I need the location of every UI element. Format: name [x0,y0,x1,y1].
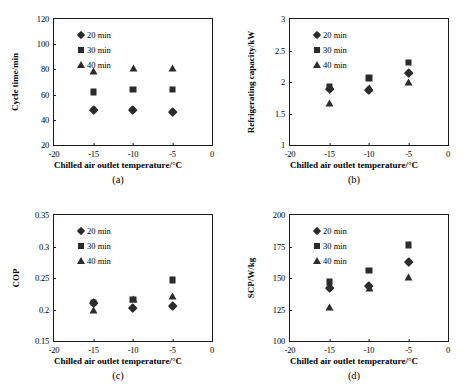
square-marker-icon [169,277,176,284]
y-axis-tick: 40 [41,115,49,125]
legend-marker [76,241,85,250]
plot-area: 11.522.53-20-15-10-5020 min30 min40 min [289,18,449,146]
panel-a: Cycle time/min20406080100120-20-15-10-50… [0,0,236,196]
data-point [168,108,177,117]
legend-item: 20 min [312,27,347,42]
legend-item-label: 30 min [323,45,347,55]
y-axis-tick: 60 [41,90,49,100]
x-axis-tick: -5 [169,345,176,355]
triangle-marker [325,302,334,311]
data-point [404,272,413,281]
square-marker-icon [405,59,412,66]
y-axis-label: COP [8,214,22,342]
x-axis-tick: -10 [364,149,375,159]
legend-marker [76,256,85,265]
legend-item: 30 min [76,238,111,253]
data-point [168,85,177,94]
data-point [365,284,374,293]
triangle-marker-icon [77,61,85,68]
y-axis-label: Cycle time/min [8,18,22,146]
data-point [404,78,413,87]
legend-item: 20 min [76,27,111,42]
legend-marker [312,241,321,250]
legend-item-label: 40 min [323,60,347,70]
y-axis-label-text: Cycle time/min [10,53,20,111]
x-axis-label: Chilled air outlet temperature/°C [0,160,236,170]
legend-marker [76,226,85,235]
triangle-marker-icon [326,303,334,310]
x-axis-tick: -5 [405,149,412,159]
data-point [129,303,138,312]
data-point [325,98,334,107]
data-point [168,275,177,284]
y-axis-tick: 0.15 [35,336,49,346]
diamond-marker [404,68,413,77]
legend-item-label: 30 min [87,45,111,55]
y-axis-label: SCP/W/kg [244,214,258,342]
y-axis-tick: 2.5 [275,46,285,56]
triangle-marker-icon [326,99,334,106]
diamond-marker [129,303,138,312]
x-axis-tick: -5 [405,345,412,355]
diamond-marker-icon [128,105,137,114]
square-marker-icon [90,89,97,96]
square-marker-icon [78,243,84,249]
triangle-marker [365,284,374,293]
data-point [325,83,334,92]
panel-b: Refrigerating capacity/kW11.522.53-20-15… [236,0,472,196]
legend-marker [312,226,321,235]
triangle-marker [168,291,177,300]
y-axis-tick: 0.25 [35,273,49,283]
diamond-marker-icon [312,30,320,38]
panel-d: SCP/W/kg100125150175200-20-15-10-5020 mi… [236,196,472,392]
y-axis-tick: 120 [37,14,49,24]
triangle-marker [365,83,374,92]
x-axis-tick: -20 [285,345,296,355]
data-point [168,64,177,73]
plot-area: 20406080100120-20-15-10-5020 min30 min40… [53,18,213,146]
triangle-marker-icon [90,67,98,74]
legend-item-label: 20 min [87,226,111,236]
square-marker-icon [130,86,137,93]
x-axis-tick: -20 [49,345,60,355]
data-point [365,83,374,92]
triangle-marker-icon [365,285,373,292]
legend-marker [76,30,85,39]
y-axis-tick: 125 [273,305,285,315]
legend-item: 20 min [312,223,347,238]
data-point [404,68,413,77]
y-axis-tick: 175 [273,242,285,252]
triangle-marker-icon [90,307,98,314]
panel-caption: (c) [0,370,236,381]
legend-item-label: 20 min [87,30,111,40]
square-marker [325,277,334,286]
data-point [89,105,98,114]
square-marker [89,88,98,97]
legend-marker [76,45,85,54]
y-axis-tick: 150 [273,273,285,283]
diamond-marker [168,108,177,117]
triangle-marker-icon [405,273,413,280]
data-point [325,277,334,286]
square-marker-icon [366,75,373,82]
x-axis-tick: 0 [210,149,214,159]
figure-four-panel-scatter: Cycle time/min20406080100120-20-15-10-50… [0,0,472,392]
x-axis-tick: -10 [364,345,375,355]
triangle-marker [129,294,138,303]
diamond-marker-icon [128,303,137,312]
triangle-marker [404,272,413,281]
legend-item-label: 20 min [323,226,347,236]
diamond-marker-icon [89,105,98,114]
diamond-marker-icon [76,226,84,234]
triangle-marker [89,306,98,315]
diamond-marker-icon [404,68,413,77]
x-axis-tick: -10 [128,149,139,159]
triangle-marker-icon [129,295,137,302]
diamond-marker [404,257,413,266]
legend-item: 30 min [76,42,111,57]
legend-item: 40 min [312,57,347,72]
legend-marker [312,60,321,69]
panel-c: COP0.150.20.250.30.35-20-15-10-5020 min3… [0,196,236,392]
panel-caption: (b) [236,174,472,185]
square-marker [365,266,374,275]
